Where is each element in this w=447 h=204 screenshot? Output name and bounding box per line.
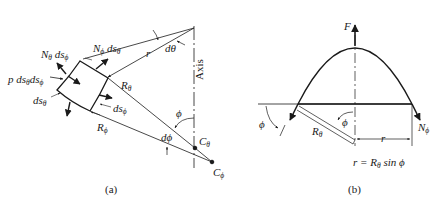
center-c-phi bbox=[210, 160, 214, 164]
n-phi-arrow bbox=[412, 104, 420, 120]
label-r-theta: Rθ bbox=[120, 79, 132, 93]
label-pressure: p dsθdsϕ bbox=[7, 73, 44, 87]
r-line bbox=[108, 28, 194, 77]
shell-element-figure: Nθ dsϕ Nϕ dsθ p dsθdsϕ dsθ dsϕ r dθ Rθ R… bbox=[0, 0, 447, 204]
label-n-phi-ds-theta: Nϕ dsθ bbox=[92, 42, 121, 56]
label-r-b: r bbox=[381, 132, 386, 144]
label-n-theta-ds-phi: Nθ dsϕ bbox=[40, 48, 69, 62]
caption-a: (a) bbox=[105, 183, 118, 196]
label-phi: ϕ bbox=[176, 107, 182, 119]
label-d-phi: dϕ bbox=[161, 131, 173, 143]
center-c-theta bbox=[193, 146, 197, 150]
figure-a bbox=[50, 26, 214, 168]
label-r: r bbox=[146, 47, 151, 59]
equation: r = Rθ sin ϕ bbox=[353, 156, 405, 170]
label-phi-center: ϕ bbox=[342, 116, 348, 128]
label-phi-left: ϕ bbox=[259, 118, 265, 130]
shell-element bbox=[57, 61, 108, 111]
label-ds-theta: dsθ bbox=[33, 94, 47, 108]
label-r-phi: Rϕ bbox=[96, 121, 108, 135]
label-r-theta-b: Rθ bbox=[311, 125, 323, 139]
label-axis: Axis bbox=[193, 59, 205, 80]
figure-b bbox=[258, 25, 420, 146]
label-ds-phi: dsϕ bbox=[113, 102, 127, 116]
label-c-theta: Cθ bbox=[199, 135, 210, 149]
label-d-theta: dθ bbox=[165, 42, 177, 54]
caption-b: (b) bbox=[348, 183, 361, 196]
label-n-phi: Nϕ bbox=[417, 121, 429, 135]
label-c-phi: Cϕ bbox=[213, 166, 224, 180]
label-force: F bbox=[343, 20, 351, 32]
